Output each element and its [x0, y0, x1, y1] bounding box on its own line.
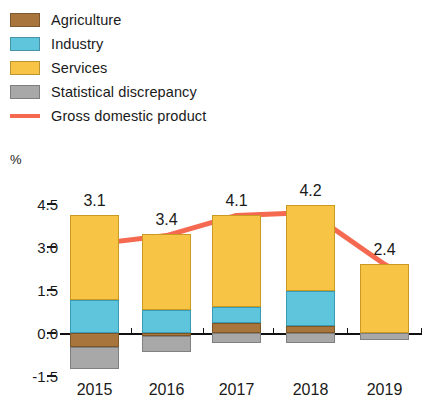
bar-segment-discrepancy[interactable]: [70, 347, 119, 369]
x-axis-category-label: 2015: [58, 381, 131, 399]
x-axis-tick-mark: [347, 328, 348, 333]
y-axis-tick-mark: [47, 289, 56, 291]
x-axis-category-label: 2017: [200, 381, 273, 399]
plot-area: 3.120153.420164.120174.220182.42019: [60, 0, 429, 412]
bar-group-2019[interactable]: [360, 0, 409, 412]
y-axis: 4.53.01.50.0-1.5: [0, 0, 58, 412]
bar-value-label: 3.4: [132, 211, 201, 229]
bar-group-2016[interactable]: [142, 0, 191, 412]
bar-segment-agriculture[interactable]: [212, 323, 261, 333]
x-axis-category-label: 2016: [130, 381, 203, 399]
bar-group-2018[interactable]: [286, 0, 335, 412]
bar-value-label: 4.1: [202, 192, 271, 210]
x-axis-tick-mark: [273, 328, 274, 333]
bar-value-label: 3.1: [60, 192, 129, 210]
bar-segment-industry[interactable]: [70, 300, 119, 333]
bar-value-label: 2.4: [350, 241, 419, 259]
x-axis-tick-mark: [421, 328, 422, 333]
y-axis-tick-mark: [47, 332, 56, 334]
chart-root: Agriculture Industry Services Statistica…: [0, 0, 429, 412]
bar-segment-services[interactable]: [360, 264, 409, 333]
bar-segment-industry[interactable]: [142, 310, 191, 333]
y-axis-tick-mark: [47, 246, 56, 248]
bar-segment-services[interactable]: [286, 205, 335, 291]
bar-segment-discrepancy[interactable]: [212, 333, 261, 343]
x-axis-tick-mark: [131, 328, 132, 333]
bar-segment-services[interactable]: [142, 234, 191, 310]
bar-segment-services[interactable]: [212, 215, 261, 307]
x-axis-tick-mark: [203, 328, 204, 333]
bar-segment-services[interactable]: [70, 215, 119, 300]
bar-segment-agriculture[interactable]: [286, 326, 335, 333]
y-axis-tick-mark: [47, 203, 56, 205]
x-axis-category-label: 2019: [348, 381, 421, 399]
y-axis-tick-mark: [47, 375, 56, 377]
bar-segment-discrepancy[interactable]: [360, 333, 409, 340]
bar-segment-discrepancy[interactable]: [286, 333, 335, 343]
x-axis-category-label: 2018: [274, 381, 347, 399]
bar-value-label: 4.2: [276, 182, 345, 200]
bar-segment-agriculture[interactable]: [70, 333, 119, 347]
bar-segment-industry[interactable]: [286, 291, 335, 325]
bar-segment-discrepancy[interactable]: [142, 336, 191, 352]
bar-segment-industry[interactable]: [212, 307, 261, 323]
